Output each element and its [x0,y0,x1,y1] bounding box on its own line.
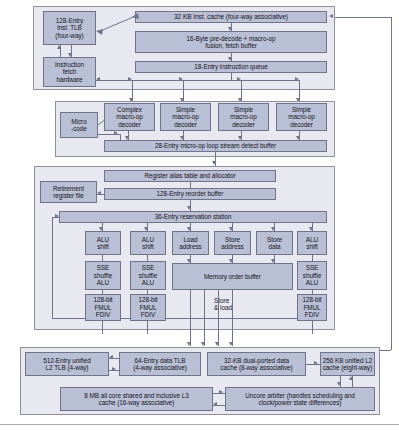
loop-rat-arrow [212,161,216,165]
l2-tlb-line-2: L2 TLB (4-way) [46,364,89,371]
loop-buffer-label: 28-Entry micro-op loop stream detect buf… [155,142,276,149]
instruction-cache-label: 32 KB Inst. cache (four-way associative) [174,13,288,20]
mob-mem-arrow-a [187,342,191,346]
l3-cache-line-2: cache (16-way associative) [99,399,175,406]
rob-rs-arrow [187,206,191,210]
writeback-return-arrow [55,214,59,218]
port-5-line-2: shift [306,243,317,250]
diagram-canvas: 128-Entry inst. TLB (four-way) Instructi… [0,0,399,433]
port-0-line-2: shift [97,243,108,250]
queue-bus-marker-3 [237,77,241,81]
l3-cache-line-1: 8 MB all core shared and inclusive L3 [84,392,188,399]
uncore-arbiter-box[interactable]: Uncore arbiter (handles scheduling and c… [225,387,375,411]
store-and-load-label: Store & load [214,294,264,314]
mob-mem-arrow-b [201,342,205,346]
register-alias-table-box[interactable]: Register alias table and allocator [104,170,276,182]
reservation-station-box[interactable]: 36-Entry reservation station [59,211,327,223]
port-0-line-1: ALU [97,236,109,243]
rob-label: 128-Entry reorder buffer [157,190,224,197]
sse-shuffle-alu-2-box[interactable]: SSE shuffle ALU [297,261,327,290]
l2-cache-line-2: cache (eight-way) [323,364,373,371]
rat-label: Register alias table and allocator [144,172,235,179]
mob-mem-line-a [190,290,191,346]
l2-cache-box[interactable]: 256 KB unified L2 cache (eight-way) [320,352,375,376]
rs-label: 36-Entry reservation station [155,213,232,220]
instruction-fetch-hardware-box[interactable]: Instruction fetch hardware [43,57,96,87]
uncore-line-1: Uncore arbiter (handles scheduling and [245,392,355,399]
fp-0-line-3: FDIV [96,311,110,318]
inst-tlb-box[interactable]: 128-Entry inst. TLB (four-way) [43,11,96,45]
retirement-register-file-box[interactable]: Retirement register file [40,181,97,203]
predecode-fetch-buffer-box[interactable]: 16-Byte pre-decode + macro-op fusion, fe… [135,31,327,53]
decoder-2-line-1: Simple [234,106,253,113]
decoder-3-line-1: Simple [292,106,311,113]
rrf-line-1: Retirement [53,185,84,192]
tlb-cache-link [90,12,140,38]
l2-icache-return-vline [391,17,392,350]
data-cache-box[interactable]: 32-KB dual-ported data cache (8-way asso… [207,352,306,376]
l3-cache-box[interactable]: 8 MB all core shared and inclusive L3 ca… [60,387,213,411]
data-cache-line-2: cache (8-way associative) [220,364,292,371]
fp-1-line-2: FMUL [139,304,156,311]
microcode-box[interactable]: Micro -code [60,112,98,138]
store-address-port-box[interactable]: Store address [214,231,251,255]
loop-stream-detect-buffer-box[interactable]: 28-Entry micro-op loop stream detect buf… [104,140,327,152]
data-cache-line-1: 32-KB dual-ported data [224,357,289,364]
alu-shift-port-5-box[interactable]: ALU shift [297,231,327,255]
l2-tlb-box[interactable]: 512-Entry unified L2 TLB (4-way) [25,352,109,376]
memory-order-buffer-box[interactable]: Memory order buffer [172,263,293,290]
dcache-l2-arrow [314,361,318,365]
fp-0-line-1: 128-bit [93,296,112,303]
reorder-buffer-box[interactable]: 128-Entry reorder buffer [104,188,276,200]
queue-bus-marker-2 [179,77,183,81]
mob-mem-arrow-c [215,342,219,346]
instruction-cache-box[interactable]: 32 KB Inst. cache (four-way associative) [135,11,327,23]
port-1-line-1: ALU [142,236,154,243]
sse-1-line-3: ALU [142,279,154,286]
instruction-queue-label: 18-Entry instruction queue [194,63,267,70]
sse-1-line-1: SSE [142,264,155,271]
rrf-line-2: register file [53,192,84,199]
l2tlb-dtlb-arrow-bottom [112,367,116,371]
fetch-hw-line-1: Instruction [55,61,84,68]
fmul-fdiv-2-box[interactable]: 128-bit FMUL FDIV [297,294,327,321]
decoder-0-line-1: Complex [117,106,142,113]
sse-2-line-2: shuffle [303,272,321,279]
store-data-port-box[interactable]: Store data [256,231,293,255]
complex-macro-op-decoder-box[interactable]: Complex macro-op decoder [104,103,155,131]
data-tlb-line-1: 64-Entry data TLB [135,357,186,364]
sse-shuffle-alu-1-box[interactable]: SSE shuffle ALU [130,261,166,290]
queue-bus [96,80,299,81]
simple-macro-op-decoder-1-box[interactable]: Simple macro-op decoder [160,103,211,131]
tlb-fetch-arrow-up [57,45,61,49]
simple-macro-op-decoder-3-box[interactable]: Simple macro-op decoder [276,103,327,131]
store-load-line-2: & load [214,304,232,311]
port-4-line-2: data [268,243,280,250]
page-bottom-rule [0,424,399,425]
simple-macro-op-decoder-2-box[interactable]: Simple macro-op decoder [218,103,269,131]
data-tlb-box[interactable]: 64-Entry data TLB (4-way associative) [119,352,201,376]
rob-rrf-arrow [97,191,101,195]
port-3-line-2: address [221,243,243,250]
inst-tlb-line-3: (four-way) [55,32,83,39]
alu-shift-port-0-box[interactable]: ALU shift [85,231,121,255]
l2-uncore-arrow-down [337,382,341,386]
mob-mem-arrow-d [229,342,233,346]
fp-bus-drop-0 [102,321,103,334]
decoder-2-line-2: macro-op [230,113,257,120]
sse-shuffle-alu-0-box[interactable]: SSE shuffle ALU [85,261,121,290]
fp-2-line-1: 128-bit [302,296,321,303]
fmul-fdiv-0-box[interactable]: 128-bit FMUL FDIV [85,294,121,321]
sse-0-line-1: SSE [97,264,110,271]
fp-1-line-1: 128-bit [138,296,157,303]
load-address-port-box[interactable]: Load address [172,231,209,255]
fetch-hw-line-3: hardware [56,76,82,83]
alu-shift-port-1-box[interactable]: ALU shift [130,231,166,255]
port-5-line-1: ALU [306,236,318,243]
mob-mem-line-d [232,290,233,346]
mob-mem-line-b [204,290,205,346]
fmul-fdiv-1-box[interactable]: 128-bit FMUL FDIV [130,294,166,321]
mob-label: Memory order buffer [204,273,261,280]
instruction-queue-box[interactable]: 18-Entry instruction queue [135,61,327,73]
fp-bus-drop-5 [312,321,313,334]
